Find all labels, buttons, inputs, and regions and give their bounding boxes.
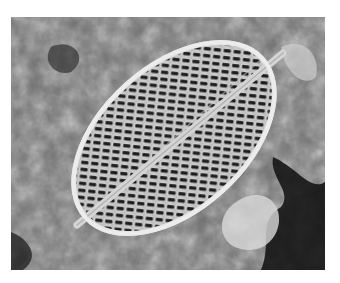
micrograph-image [11, 17, 325, 270]
diatom-micrograph [11, 17, 325, 270]
